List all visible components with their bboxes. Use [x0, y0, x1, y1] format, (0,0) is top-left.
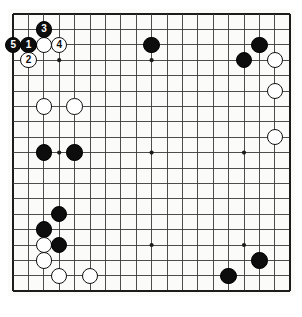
stone-b-k17	[143, 37, 160, 54]
stone-b-o16	[236, 52, 253, 69]
stone-b-q17	[251, 37, 268, 54]
stone-w-g2	[82, 268, 99, 285]
stone-b-q3	[251, 252, 268, 269]
move-stone-move-5: 5	[5, 37, 22, 54]
move-number-label: 3	[41, 24, 46, 34]
move-number-label: 4	[57, 40, 62, 50]
stone-w-r14	[267, 83, 284, 100]
stone-b-d6	[51, 206, 68, 223]
stone-w-c4	[36, 237, 53, 254]
stone-b-n2	[220, 268, 237, 285]
move-stone-move-4: 4	[51, 37, 68, 54]
move-stone-move-3: 3	[36, 21, 53, 38]
move-number-label: 2	[26, 55, 31, 65]
move-stone-move-1: 1	[20, 37, 37, 54]
stone-w-r16	[267, 52, 284, 69]
go-board-diagram: 51342	[0, 0, 302, 317]
stone-w-e13	[66, 98, 83, 115]
stone-w-r11	[267, 129, 284, 146]
stone-b-c10	[36, 144, 53, 161]
move-stone-move-2: 2	[20, 52, 37, 69]
move-number-label: 5	[10, 40, 15, 50]
stone-layer: 51342	[0, 0, 302, 317]
stone-w-d2	[51, 268, 68, 285]
move-stone-stone-c17	[36, 37, 53, 54]
stone-b-c5	[36, 221, 53, 238]
stone-w-c3	[36, 252, 53, 269]
stone-b-e10	[66, 144, 83, 161]
stone-w-c13	[36, 98, 53, 115]
stone-b-d4	[51, 237, 68, 254]
move-number-label: 1	[26, 40, 31, 50]
